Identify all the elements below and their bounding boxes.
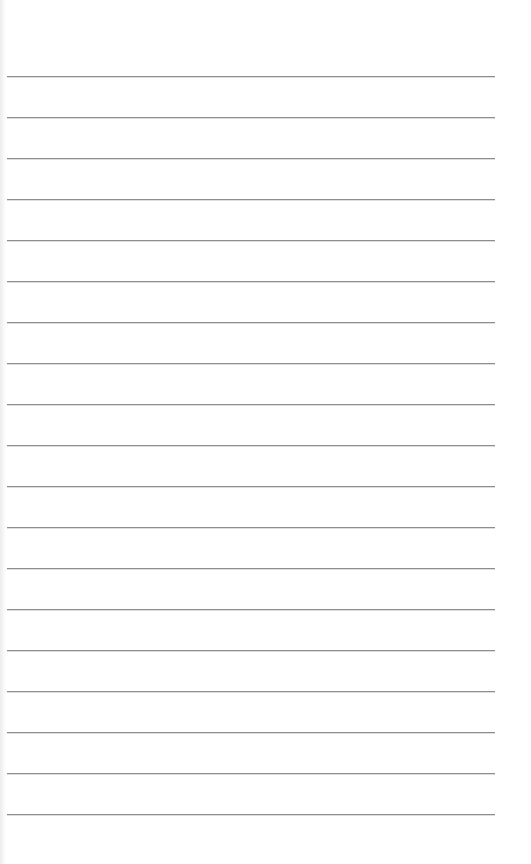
ruled-line [7,527,495,528]
ruled-line [7,445,495,446]
page-edge-shadow [0,0,6,864]
ruled-line [7,199,495,200]
ruled-line [7,691,495,692]
ruled-line [7,76,495,77]
ruled-line [7,404,495,405]
ruled-line [7,363,495,364]
ruled-line [7,650,495,651]
ruled-line [7,240,495,241]
ruled-line [7,773,495,774]
ruled-line [7,814,495,815]
ruled-line [7,322,495,323]
ruled-line [7,732,495,733]
lined-paper-page [0,0,531,864]
ruled-line [7,609,495,610]
ruled-line [7,117,495,118]
ruled-line [7,281,495,282]
ruled-line [7,158,495,159]
ruled-line [7,486,495,487]
ruled-line [7,568,495,569]
